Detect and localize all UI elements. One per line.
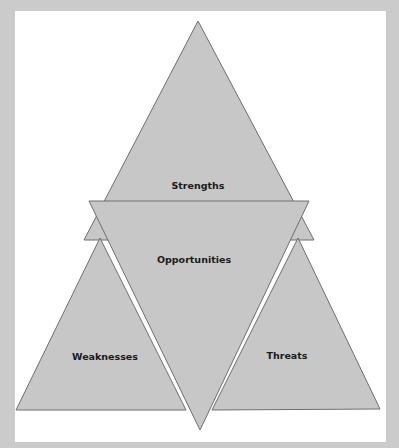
threats-label: Threats [267, 350, 308, 361]
weaknesses-label: Weaknesses [72, 351, 138, 362]
swot-diagram: Strengths Opportunities Weaknesses Threa… [0, 0, 399, 448]
strengths-label: Strengths [171, 180, 224, 191]
opportunities-label: Opportunities [157, 254, 231, 265]
